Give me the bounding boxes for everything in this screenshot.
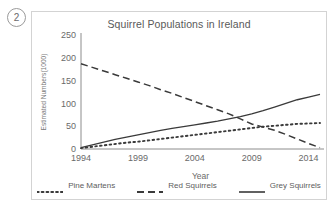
svg-text:2004: 2004 — [185, 153, 205, 163]
legend-item-red-squirrels[interactable]: Red Squirrels — [137, 181, 216, 190]
svg-text:1994: 1994 — [71, 153, 91, 163]
svg-text:200: 200 — [61, 53, 76, 63]
legend-swatch-dotted — [37, 182, 63, 190]
svg-text:1999: 1999 — [128, 153, 148, 163]
legend-swatch-dashed — [137, 182, 163, 190]
question-number-badge: 2 — [7, 8, 26, 27]
svg-text:100: 100 — [61, 99, 76, 109]
legend-swatch-solid — [239, 182, 265, 190]
svg-text:2014: 2014 — [299, 153, 319, 163]
svg-text:250: 250 — [61, 30, 76, 40]
y-axis-title: Estimated Numbers(1000) — [40, 54, 48, 131]
x-axis-tick-labels: 19941999200420092014 — [71, 153, 319, 163]
legend-label: Pine Martens — [68, 181, 115, 190]
chart-container: Squirrel Populations in Ireland 05010015… — [31, 11, 327, 200]
chart-legend: Pine MartensRed SquirrelsGrey Squirrels — [32, 181, 326, 190]
line-chart-plot: 050100150200250 19941999200420092014 Est… — [32, 12, 326, 199]
legend-item-grey-squirrels[interactable]: Grey Squirrels — [239, 181, 321, 190]
svg-text:2009: 2009 — [242, 153, 262, 163]
series-paths — [81, 64, 320, 148]
legend-label: Grey Squirrels — [270, 181, 321, 190]
axis-lines — [81, 33, 324, 149]
legend-label: Red Squirrels — [168, 181, 216, 190]
legend-item-pine-martens[interactable]: Pine Martens — [37, 181, 115, 190]
svg-text:50: 50 — [66, 121, 76, 131]
svg-text:150: 150 — [61, 76, 76, 86]
question-number-label: 2 — [14, 12, 20, 23]
y-axis-tick-labels: 050100150200250 — [61, 30, 76, 154]
x-axis-title: Year — [192, 171, 209, 181]
